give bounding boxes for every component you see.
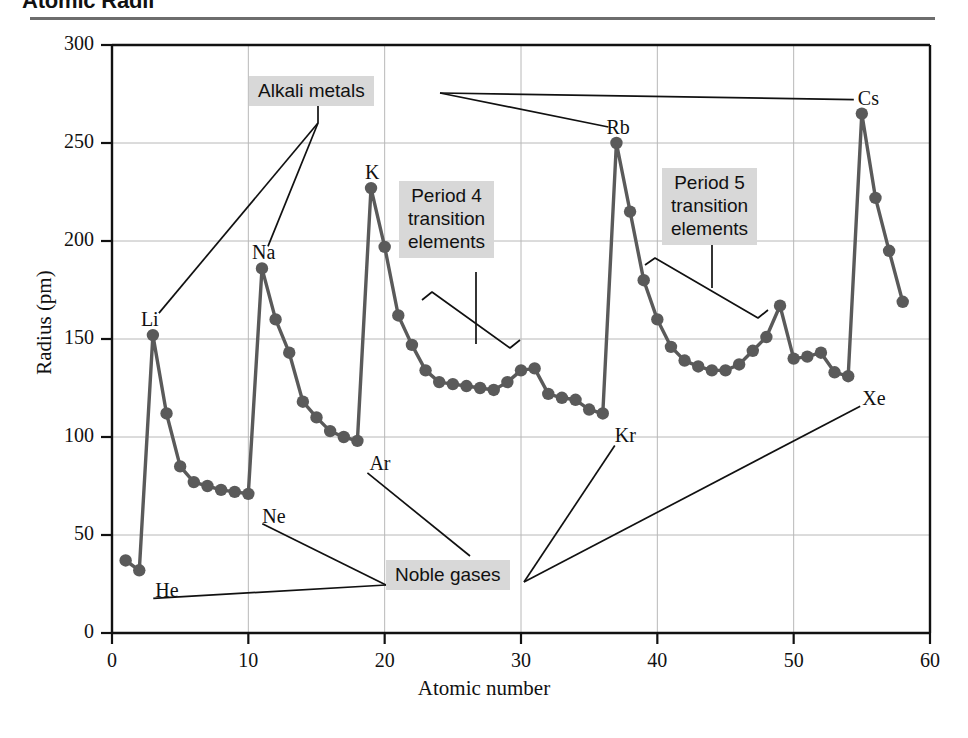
element-label-li: Li — [141, 308, 159, 331]
element-label-xe: Xe — [862, 387, 885, 410]
x-tick-label: 30 — [493, 649, 549, 672]
element-label-na: Na — [252, 241, 275, 264]
element-label-he: He — [155, 579, 178, 602]
x-tick-label: 60 — [902, 649, 958, 672]
y-tick-label: 100 — [38, 424, 94, 447]
y-axis-label: Radius (pm) — [32, 243, 57, 403]
x-tick-label: 40 — [629, 649, 685, 672]
y-tick-label: 150 — [38, 326, 94, 349]
y-tick-label: 50 — [38, 522, 94, 545]
x-tick-label: 50 — [766, 649, 822, 672]
data-line — [126, 114, 903, 571]
gridlines — [112, 45, 930, 633]
x-axis-label: Atomic number — [0, 676, 968, 701]
element-label-cs: Cs — [858, 87, 879, 110]
chart-plot-area: Alkali metals Period 4 transition elemen… — [0, 0, 968, 738]
element-label-kr: Kr — [615, 424, 636, 447]
y-tick-label: 250 — [38, 130, 94, 153]
annotation-period-4-transition: Period 4 transition elements — [399, 181, 494, 258]
annotation-alkali-metals: Alkali metals — [249, 76, 374, 106]
y-tick-label: 300 — [38, 32, 94, 55]
element-label-rb: Rb — [606, 116, 629, 139]
element-label-ne: Ne — [262, 505, 285, 528]
chart-page: Atomic Radii Alkali metals Period 4 tran… — [0, 0, 968, 738]
annotation-period-5-transition: Period 5 transition elements — [662, 168, 757, 245]
y-tick-label: 0 — [38, 620, 94, 643]
x-tick-label: 10 — [220, 649, 276, 672]
x-tick-label: 0 — [84, 649, 140, 672]
annotation-noble-gases: Noble gases — [386, 560, 510, 590]
element-label-ar: Ar — [369, 452, 390, 475]
x-tick-label: 20 — [357, 649, 413, 672]
element-label-k: K — [365, 161, 379, 184]
y-tick-label: 200 — [38, 228, 94, 251]
atomic-radii-chart — [0, 0, 968, 738]
